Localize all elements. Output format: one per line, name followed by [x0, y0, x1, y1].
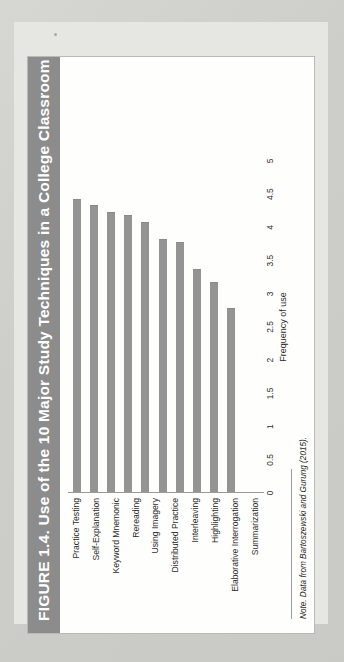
scanned-page-background: FIGURE 1.4. Use of the 10 Major Study Te…: [0, 0, 344, 662]
value-axis-tick: 5: [265, 159, 275, 164]
note-divider: [291, 469, 292, 619]
category-label: Highlighting: [207, 493, 224, 619]
figure-title-band: FIGURE 1.4. Use of the 10 Major Study Te…: [28, 57, 60, 633]
category-label: Distributed Practice: [167, 493, 184, 619]
plot-area: [68, 161, 264, 493]
bar: [124, 215, 132, 492]
value-axis-tick: 1.5: [265, 388, 275, 400]
category-label: Self-Explanation: [88, 493, 105, 619]
bar: [159, 239, 167, 492]
value-axis-tick: 3.5: [265, 255, 275, 267]
category-axis-labels: Practice TestingSelf-ExplanationKeyword …: [68, 493, 264, 619]
bar: [141, 222, 149, 492]
category-label: Keyword Mnemonic: [108, 493, 125, 619]
bar-row: [120, 161, 137, 492]
value-axis-tick: 2: [265, 358, 275, 363]
bar-row: [206, 161, 223, 492]
category-label: Rereading: [128, 493, 145, 619]
bar: [90, 205, 98, 492]
value-axis-tick: 1: [265, 424, 275, 429]
bar: [73, 199, 81, 492]
note-lead: Note.: [299, 599, 308, 619]
category-label: Using Imagery: [147, 493, 164, 619]
bar-chart: Practice TestingSelf-ExplanationKeyword …: [68, 149, 282, 619]
bar: [176, 242, 184, 492]
bar-row: [102, 161, 119, 492]
category-label: Practice Testing: [68, 493, 85, 619]
value-axis: 00.511.522.533.544.55: [264, 161, 278, 493]
bar-row: [154, 161, 171, 492]
bar: [193, 269, 201, 492]
bar: [107, 212, 115, 492]
note-text: Data from Bartoszewski and Gurung (2015)…: [299, 437, 308, 599]
figure-container: FIGURE 1.4. Use of the 10 Major Study Te…: [27, 56, 315, 634]
bar-row: [68, 161, 85, 492]
category-label: Elaborative Interrogation: [227, 493, 244, 619]
scan-speck: [54, 33, 57, 36]
book-page: FIGURE 1.4. Use of the 10 Major Study Te…: [14, 22, 328, 624]
bar-row: [137, 161, 154, 492]
bar-row: [171, 161, 188, 492]
value-axis-tick: 0.5: [265, 454, 275, 466]
bar-row: [188, 161, 205, 492]
value-axis-tick: 3: [265, 291, 275, 296]
value-axis-tick: 4.5: [265, 188, 275, 200]
bar-row: [85, 161, 102, 492]
value-axis-tick: 0: [265, 491, 275, 496]
figure-body: Practice TestingSelf-ExplanationKeyword …: [60, 57, 314, 633]
bar: [227, 308, 235, 492]
value-axis-title: Frequency of use: [278, 161, 288, 493]
bar: [210, 282, 218, 492]
category-label: Interleaving: [187, 493, 204, 619]
bar-row: [223, 161, 240, 492]
category-label: Summarization: [247, 493, 264, 619]
value-axis-tick: 4: [265, 225, 275, 230]
value-axis-tick: 2.5: [265, 321, 275, 333]
figure-note: Note. Data from Bartoszewski and Gurung …: [299, 437, 308, 619]
